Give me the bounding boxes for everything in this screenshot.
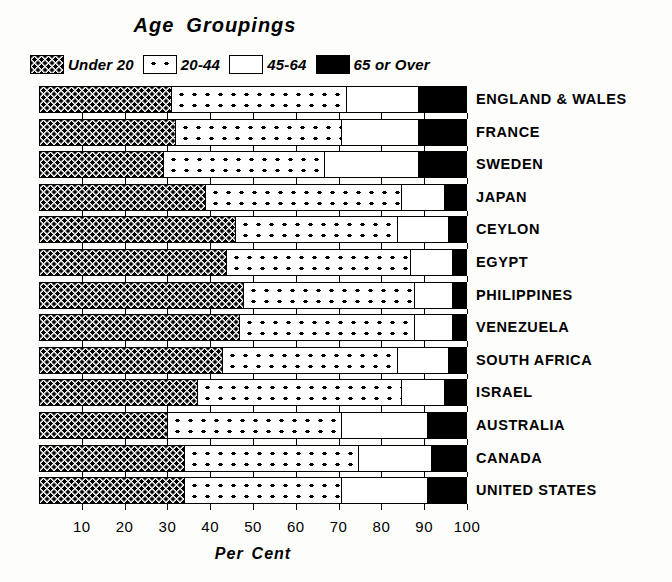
axis-tick [210,276,211,282]
axis-tick [82,504,83,510]
bar-row[interactable] [39,86,467,113]
bar-segment-20-44[interactable] [206,185,402,210]
bar-segment-65-or-over[interactable] [453,250,466,275]
axis-tick [296,146,297,152]
bar-segment-20-44[interactable] [168,413,343,438]
bar-segment-under-20[interactable] [40,250,227,275]
bar-segment-45-64[interactable] [398,217,449,242]
bar-row[interactable] [39,249,467,276]
bar-segment-45-64[interactable] [411,250,454,275]
bar-segment-65-or-over[interactable] [449,348,466,373]
bar-segment-20-44[interactable] [240,315,415,340]
bar-segment-20-44[interactable] [198,380,402,405]
bar-segment-under-20[interactable] [40,152,164,177]
legend-item-65-or-over: 65 or Over [316,55,430,74]
bar-segment-under-20[interactable] [40,87,172,112]
bar-segment-65-or-over[interactable] [453,283,466,308]
axis-tick [82,113,83,119]
bar-row[interactable] [39,347,467,374]
axis-tick [82,406,83,412]
axis-tick [296,341,297,347]
axis-tick [339,439,340,445]
bar-row[interactable] [39,379,467,406]
axis-tick [296,178,297,184]
bar-segment-45-64[interactable] [347,87,419,112]
bar-segment-under-20[interactable] [40,120,176,145]
bar-row[interactable] [39,119,467,146]
bar-segment-65-or-over[interactable] [445,185,466,210]
bar-segment-45-64[interactable] [325,152,419,177]
bar-segment-under-20[interactable] [40,185,206,210]
axis-tick [210,178,211,184]
bar-segment-65-or-over[interactable] [453,315,466,340]
bar-segment-45-64[interactable] [398,348,449,373]
bar-segment-65-or-over[interactable] [419,87,466,112]
bar-segment-65-or-over[interactable] [419,152,466,177]
bar-row[interactable] [39,445,467,472]
bar-segment-45-64[interactable] [342,413,427,438]
bar-segment-20-44[interactable] [236,217,398,242]
chart-legend: Under 20 20-44 45-64 65 or Over [30,52,450,76]
axis-tick [210,341,211,347]
axis-tick [125,243,126,249]
bar-segment-20-44[interactable] [223,348,398,373]
bar-row[interactable] [39,314,467,341]
axis-tick [296,276,297,282]
bar-segment-20-44[interactable] [185,478,343,503]
bar-row[interactable] [39,216,467,243]
bar-segment-under-20[interactable] [40,348,223,373]
bar-segment-under-20[interactable] [40,413,168,438]
bar-segment-under-20[interactable] [40,478,185,503]
chart-title-word-2: Groupings [186,14,296,36]
bar-row[interactable] [39,151,467,178]
bar-row[interactable] [39,412,467,439]
axis-tick [467,276,468,282]
axis-tick [339,211,340,217]
bar-segment-65-or-over[interactable] [428,478,466,503]
axis-tick [210,439,211,445]
bar-segment-20-44[interactable] [185,446,360,471]
axis-tick [467,341,468,347]
bar-segment-45-64[interactable] [342,478,427,503]
axis-tick [253,178,254,184]
bar-segment-20-44[interactable] [172,87,347,112]
bar-segment-45-64[interactable] [342,120,419,145]
axis-tick [82,341,83,347]
bar-segment-45-64[interactable] [359,446,431,471]
bar-segment-65-or-over[interactable] [432,446,466,471]
bar-segment-45-64[interactable] [402,380,445,405]
bar-segment-20-44[interactable] [164,152,326,177]
axis-tick [381,178,382,184]
bar-row[interactable] [39,282,467,309]
bar-segment-45-64[interactable] [415,283,453,308]
axis-tick [210,406,211,412]
axis-tick [167,472,168,478]
bar-row[interactable] [39,477,467,504]
x-axis-title-word-1: Per [215,545,244,562]
bar-segment-under-20[interactable] [40,380,198,405]
x-axis-tick-label: 100 [454,518,481,535]
axis-tick [381,439,382,445]
axis-tick [125,276,126,282]
bar-segment-under-20[interactable] [40,446,185,471]
bar-segment-65-or-over[interactable] [419,120,466,145]
axis-tick [125,341,126,347]
axis-tick [253,439,254,445]
bar-row[interactable] [39,184,467,211]
bar-segment-65-or-over[interactable] [445,380,466,405]
bar-segment-under-20[interactable] [40,217,236,242]
bar-segment-45-64[interactable] [402,185,445,210]
axis-tick [210,243,211,249]
bar-segment-20-44[interactable] [244,283,414,308]
axis-tick [467,439,468,445]
bar-segment-65-or-over[interactable] [428,413,466,438]
legend-item-20-44: 20-44 [143,55,220,74]
bar-segment-45-64[interactable] [415,315,453,340]
bar-segment-65-or-over[interactable] [449,217,466,242]
bar-segment-20-44[interactable] [176,120,342,145]
bar-segment-under-20[interactable] [40,283,244,308]
axis-tick [424,243,425,249]
bar-segment-20-44[interactable] [227,250,410,275]
axis-tick [210,309,211,315]
bar-segment-under-20[interactable] [40,315,240,340]
